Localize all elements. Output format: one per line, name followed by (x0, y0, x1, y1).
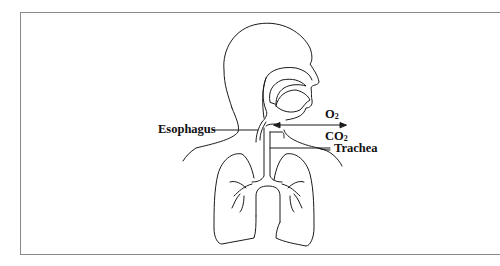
mouth-cavity (276, 90, 310, 112)
trachea-left (252, 128, 264, 182)
arrowhead-left-icon (274, 123, 280, 128)
right-bronchiole-3 (294, 194, 302, 208)
right-bronchiole-2 (288, 181, 304, 188)
trachea-right (270, 132, 282, 182)
left-lung (214, 154, 256, 244)
arrowhead-right-icon (340, 123, 346, 128)
trachea-top (270, 132, 284, 138)
left-bronchiole-2 (230, 181, 246, 188)
left-bronchiole-4 (240, 196, 244, 212)
oxygen-label: O2 (325, 108, 339, 121)
trachea-label: Trachea (334, 142, 378, 155)
right-bronchiole-4 (290, 196, 294, 212)
bronchi-arch (256, 186, 280, 222)
left-bronchiole-3 (232, 194, 240, 208)
esophagus-label: Esophagus (158, 123, 216, 136)
